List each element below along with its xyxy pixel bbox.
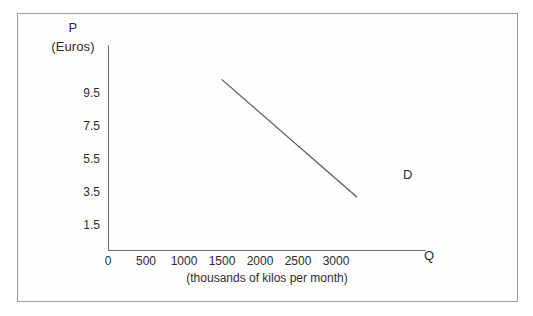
x-axis-subtitle: (thousands of kilos per month) (108, 270, 426, 286)
y-tick-label: 9.5 (66, 86, 100, 100)
y-axis-title-unit: (Euros) (40, 37, 106, 56)
demand-curve-label: D (403, 167, 412, 183)
y-axis-title-symbol: P (69, 20, 78, 35)
figure-root: P (Euros) Q (thousands of kilos per mont… (0, 0, 533, 316)
x-tick-label: 3000 (313, 254, 359, 268)
x-axis-title: Q (424, 247, 434, 265)
y-tick-label: 7.5 (66, 119, 100, 133)
y-tick-label: 1.5 (66, 218, 100, 232)
x-axis-line (108, 250, 426, 251)
y-axis-title: P (Euros) (40, 18, 106, 56)
y-tick-label: 3.5 (66, 185, 100, 199)
y-tick-label: 5.5 (66, 152, 100, 166)
y-axis-line (108, 45, 109, 251)
